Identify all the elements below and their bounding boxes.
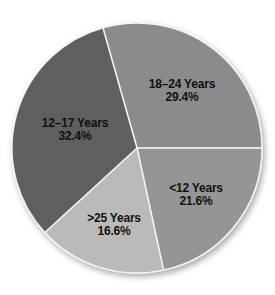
slice-label: >25 Years16.6% — [87, 212, 141, 238]
slice-label: 18–24 Years29.4% — [149, 78, 215, 104]
slice-percent-text: 21.6% — [169, 195, 223, 208]
pie-chart — [0, 0, 275, 295]
slice-label: 12–17 Years32.4% — [42, 117, 108, 143]
slice-percent-text: 29.4% — [149, 91, 215, 104]
slice-label: <12 Years21.6% — [169, 182, 223, 208]
slice-percent-text: 16.6% — [87, 225, 141, 238]
slice-percent-text: 32.4% — [42, 130, 108, 143]
